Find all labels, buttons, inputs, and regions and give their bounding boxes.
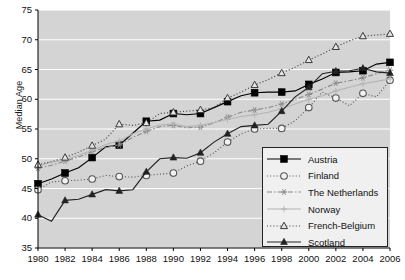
legend-item-finland[interactable]: Finland [263, 168, 387, 185]
legend-label: The Netherlands [305, 187, 378, 198]
x-tick-1992: 1992 [185, 253, 215, 264]
x-tick-1982: 1982 [50, 253, 80, 264]
legend-item-austria[interactable]: Austria [263, 151, 387, 168]
y-tick-40: 40 [8, 212, 32, 223]
chart-legend: AustriaFinlandThe NetherlandsNorwayFrenc… [262, 147, 388, 247]
y-tick-50: 50 [8, 153, 32, 164]
x-tick-1990: 1990 [158, 253, 188, 264]
legend-label: Scotland [305, 237, 345, 248]
legend-item-the-netherlands[interactable]: The Netherlands [263, 184, 387, 201]
y-tick-75: 75 [8, 4, 32, 15]
legend-swatch-filled-square-icon [263, 152, 305, 166]
y-tick-70: 70 [8, 34, 32, 45]
x-tick-2002: 2002 [321, 253, 351, 264]
legend-swatch-open-circle-icon [263, 169, 305, 183]
x-tick-1988: 1988 [131, 253, 161, 264]
y-tick-45: 45 [8, 183, 32, 194]
x-tick-1980: 1980 [23, 253, 53, 264]
y-tick-65: 65 [8, 64, 32, 75]
legend-item-french-belgium[interactable]: French-Belgium [263, 217, 387, 234]
legend-swatch-plus-icon [263, 202, 305, 216]
x-tick-1984: 1984 [77, 253, 107, 264]
y-tick-60: 60 [8, 93, 32, 104]
x-tick-1996: 1996 [240, 253, 270, 264]
legend-swatch-asterisk-icon [263, 185, 305, 199]
legend-swatch-open-triangle-icon [263, 219, 305, 233]
legend-label: Austria [305, 154, 338, 165]
x-tick-2006: 2006 [375, 253, 405, 264]
y-tick-35: 35 [8, 242, 32, 253]
legend-label: French-Belgium [305, 220, 375, 231]
y-tick-55: 55 [8, 123, 32, 134]
legend-label: Norway [305, 204, 340, 215]
x-tick-1998: 1998 [267, 253, 297, 264]
x-tick-2004: 2004 [348, 253, 378, 264]
x-tick-1986: 1986 [104, 253, 134, 264]
legend-item-scotland[interactable]: Scotland [263, 234, 387, 251]
x-tick-2000: 2000 [294, 253, 324, 264]
legend-item-norway[interactable]: Norway [263, 201, 387, 218]
legend-label: Finland [305, 170, 339, 181]
legend-swatch-filled-triangle-icon [263, 235, 305, 249]
x-tick-1994: 1994 [213, 253, 243, 264]
